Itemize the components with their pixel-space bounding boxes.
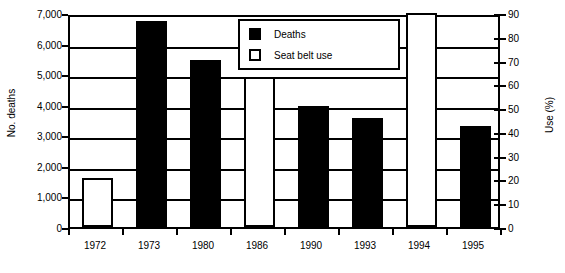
x-axis-tick-mark — [446, 229, 448, 235]
y-axis-left-tick-label: 2,000 — [37, 163, 62, 173]
figure-caption — [10, 263, 555, 273]
x-axis-tick-label-1986: 1986 — [227, 240, 287, 251]
legend-label-deaths: Deaths — [274, 29, 306, 40]
y-axis-right-tick-mark — [494, 157, 506, 159]
filled-square-icon — [249, 28, 261, 40]
x-axis-tick-label-1995: 1995 — [443, 240, 503, 251]
x-axis-tick-mark — [392, 229, 394, 235]
y-axis-right-tick-label: 10 — [508, 200, 519, 210]
legend-item-seat-belt-use: Seat belt use — [249, 48, 332, 62]
y-axis-right-tick-label: 20 — [508, 176, 519, 186]
y-axis-right-tick-mark — [494, 14, 506, 16]
y-axis-right-tick-mark — [494, 228, 506, 230]
y-axis-left-tick-label: 1,000 — [37, 193, 62, 203]
y-axis-left-tick-label: 3,000 — [37, 132, 62, 142]
y-axis-left-tick-mark — [62, 136, 68, 138]
y-axis-right-tick-mark — [494, 62, 506, 64]
x-axis-tick-label-1990: 1990 — [281, 240, 341, 251]
y-axis-right-tick-label: 60 — [508, 81, 519, 91]
x-axis-tick-label-1993: 1993 — [335, 240, 395, 251]
chart-legend: Deaths Seat belt use — [238, 19, 400, 70]
y-axis-left-tick-mark — [62, 45, 68, 47]
hollow-square-icon — [249, 49, 261, 61]
y-axis-right-tick-mark — [494, 38, 506, 40]
bar-1994 — [406, 13, 437, 227]
y-axis-right-tick-mark — [494, 180, 506, 182]
x-axis-tick-mark — [338, 229, 340, 235]
bar-1972 — [82, 178, 113, 227]
y-axis-right-tick-label: 30 — [508, 153, 519, 163]
y-axis-right-tick-label: 90 — [508, 10, 519, 20]
legend-label-seat-belt-use: Seat belt use — [274, 50, 332, 61]
y-axis-right-title: Use (%) — [545, 80, 555, 150]
y-axis-left-tick-label: 5,000 — [37, 71, 62, 81]
x-axis-labels: 19721973198019861990199319941995 — [0, 240, 565, 254]
y-axis-left-tick-mark — [62, 14, 68, 16]
legend-item-deaths: Deaths — [249, 27, 306, 41]
bar-1980 — [190, 60, 221, 227]
y-axis-right-tick-label: 40 — [508, 129, 519, 139]
x-axis-tick-mark — [68, 229, 70, 235]
bar-1993 — [352, 118, 383, 227]
y-axis-right-tick-label: 80 — [508, 34, 519, 44]
x-axis-tick-label-1973: 1973 — [119, 240, 179, 251]
y-axis-left-tick-label: 4,000 — [37, 102, 62, 112]
y-axis-left-tick-mark — [62, 197, 68, 199]
y-axis-left-tick-label: 6,000 — [37, 41, 62, 51]
y-axis-right-tick-label: 50 — [508, 105, 519, 115]
y-axis-right-tick-mark — [494, 109, 506, 111]
y-axis-right-tick-mark — [494, 85, 506, 87]
x-axis-tick-mark — [176, 229, 178, 235]
x-axis-tick-mark — [284, 229, 286, 235]
x-axis-tick-mark — [122, 229, 124, 235]
y-axis-left-tick-mark — [62, 228, 68, 230]
x-axis-tick-mark — [230, 229, 232, 235]
bar-1986 — [244, 77, 275, 227]
bar-1995 — [460, 126, 491, 227]
y-axis-right-tick-label: 70 — [508, 58, 519, 68]
y-axis-left-tick-mark — [62, 167, 68, 169]
y-axis-right-tick-mark — [494, 133, 506, 135]
y-axis-left-title: No. deaths — [7, 78, 17, 148]
x-axis-ticks — [0, 229, 565, 237]
bar-1973 — [136, 21, 167, 227]
x-axis-tick-label-1980: 1980 — [173, 240, 233, 251]
y-axis-right-tick-mark — [494, 204, 506, 206]
x-axis-tick-label-1994: 1994 — [389, 240, 449, 251]
figure: 01,0002,0003,0004,0005,0006,0007,000 No.… — [0, 0, 565, 273]
y-axis-left-tick-mark — [62, 106, 68, 108]
y-axis-left-tick-label: 7,000 — [37, 10, 62, 20]
y-axis-left-tick-mark — [62, 75, 68, 77]
bar-1990 — [298, 106, 329, 227]
x-axis-tick-label-1972: 1972 — [65, 240, 125, 251]
